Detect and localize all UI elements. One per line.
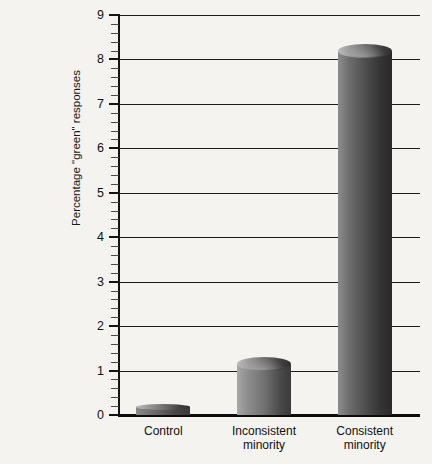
bar-control — [136, 407, 190, 415]
y-tick-major-0 — [109, 414, 119, 416]
y-tick-minor — [111, 379, 119, 380]
y-tick-minor — [111, 406, 119, 407]
y-tick-minor — [111, 113, 119, 114]
y-tick-minor — [111, 335, 119, 336]
y-axis-title: Percentage "green" responses — [70, 48, 86, 248]
x-label-line: Consistent — [295, 424, 432, 438]
y-tick-minor — [111, 33, 119, 34]
y-tick-minor — [111, 184, 119, 185]
scan-top-text-fragment — [75, 0, 405, 6]
y-tick-minor — [111, 24, 119, 25]
y-tick-minor — [111, 77, 119, 78]
y-tick-minor — [111, 157, 119, 158]
y-tick-minor — [111, 255, 119, 256]
y-tick-minor — [111, 273, 119, 274]
x-label-line: minority — [295, 438, 432, 452]
y-tick-minor — [111, 362, 119, 363]
y-tick-minor — [111, 246, 119, 247]
y-tick-minor — [111, 95, 119, 96]
y-tick-major-8 — [109, 58, 119, 60]
y-tick-minor — [111, 388, 119, 389]
y-tick-major-5 — [109, 192, 119, 194]
y-tick-label-3: 3 — [97, 275, 104, 289]
y-tick-label-7: 7 — [97, 97, 104, 111]
y-tick-label-5: 5 — [97, 186, 104, 200]
y-tick-label-0: 0 — [97, 408, 104, 422]
y-tick-minor — [111, 139, 119, 140]
bar-inconsistent-minority — [237, 364, 291, 415]
y-tick-label-9: 9 — [97, 8, 104, 22]
bar-top-cap — [136, 404, 190, 410]
y-tick-label-4: 4 — [97, 230, 104, 244]
y-tick-minor — [111, 264, 119, 265]
y-tick-minor — [111, 397, 119, 398]
y-tick-minor — [111, 202, 119, 203]
y-tick-minor — [111, 68, 119, 69]
bar-top-highlight — [338, 44, 392, 57]
bar-consistent-minority — [338, 51, 392, 415]
y-axis-line — [118, 14, 120, 416]
y-tick-minor — [111, 317, 119, 318]
y-tick-minor — [111, 131, 119, 132]
y-tick-minor — [111, 51, 119, 52]
y-tick-major-2 — [109, 325, 119, 327]
y-tick-label-8: 8 — [97, 52, 104, 66]
bar-top-highlight — [237, 357, 291, 370]
y-tick-minor — [111, 344, 119, 345]
y-tick-label-1: 1 — [97, 364, 104, 378]
y-tick-minor — [111, 353, 119, 354]
y-tick-major-1 — [109, 370, 119, 372]
y-tick-minor — [111, 166, 119, 167]
y-tick-major-7 — [109, 103, 119, 105]
y-tick-label-2: 2 — [97, 319, 104, 333]
bar-chart-figure: Percentage "green" responses 0123456789 … — [0, 0, 432, 464]
y-tick-minor — [111, 308, 119, 309]
y-tick-major-9 — [109, 14, 119, 16]
y-tick-major-3 — [109, 281, 119, 283]
y-tick-minor — [111, 291, 119, 292]
gridline-9 — [118, 15, 420, 16]
y-tick-minor — [111, 299, 119, 300]
y-tick-minor — [111, 211, 119, 212]
y-tick-minor — [111, 42, 119, 43]
y-tick-minor — [111, 122, 119, 123]
y-tick-minor — [111, 175, 119, 176]
x-axis-label-consistent-minority: Consistentminority — [295, 424, 432, 452]
y-tick-major-6 — [109, 147, 119, 149]
y-tick-major-4 — [109, 236, 119, 238]
plot-area: 0123456789 — [118, 15, 420, 415]
y-tick-minor — [111, 86, 119, 87]
y-tick-minor — [111, 219, 119, 220]
y-tick-label-6: 6 — [97, 141, 104, 155]
y-tick-minor — [111, 228, 119, 229]
